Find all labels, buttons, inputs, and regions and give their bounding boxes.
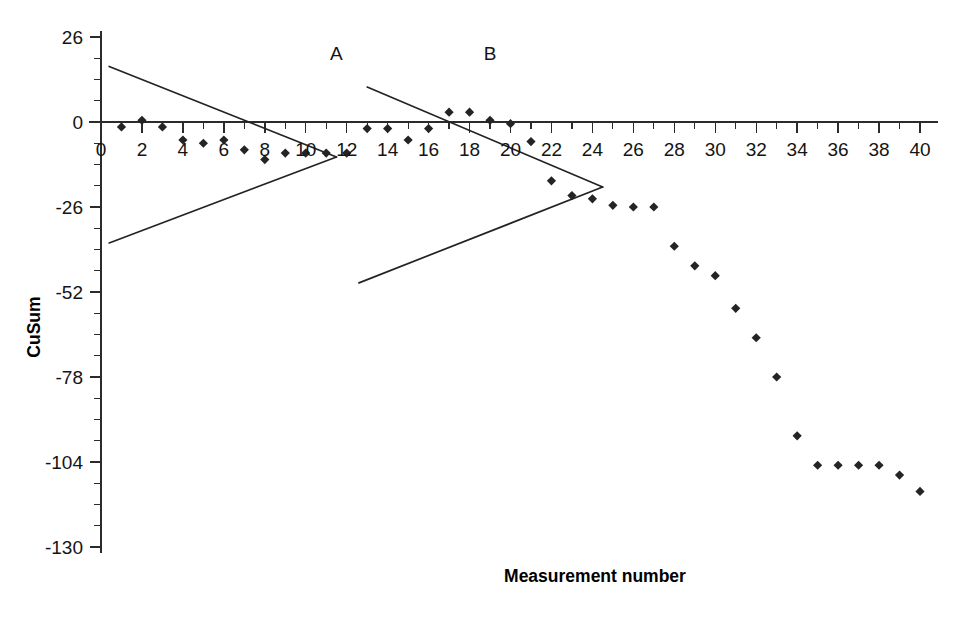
data-point <box>690 261 699 270</box>
y-tick-label: -52 <box>56 282 83 303</box>
x-tick-label: 14 <box>377 139 399 160</box>
x-tick-label: 36 <box>828 139 849 160</box>
data-point <box>281 148 290 157</box>
data-point <box>752 333 761 342</box>
data-point <box>588 194 597 203</box>
x-axis-title: Measurement number <box>504 566 686 586</box>
data-point <box>199 139 208 148</box>
x-tick-label: 22 <box>541 139 562 160</box>
x-tick-label: 6 <box>219 139 230 160</box>
x-tick-label: 20 <box>500 139 521 160</box>
x-tick-label: 12 <box>336 139 357 160</box>
data-point <box>465 108 474 117</box>
x-tick-label: 24 <box>582 139 604 160</box>
data-point <box>424 124 433 133</box>
data-point <box>834 461 843 470</box>
data-point <box>506 119 515 128</box>
x-tick-label: 2 <box>137 139 148 160</box>
data-point <box>670 242 679 251</box>
v-mask-upper-arm-b <box>367 87 602 187</box>
x-tick-label: 4 <box>178 139 189 160</box>
y-tick-label: -78 <box>56 367 83 388</box>
data-point <box>895 470 904 479</box>
data-point <box>383 124 392 133</box>
data-point <box>363 124 372 133</box>
v-mask-lower-arm-a <box>109 157 336 243</box>
x-tick-label: 18 <box>459 139 480 160</box>
x-tick-label: 8 <box>260 139 271 160</box>
data-point <box>322 148 331 157</box>
y-axis-ticks <box>90 37 101 547</box>
data-point-group <box>117 108 925 496</box>
mask-label-b: B <box>484 43 497 64</box>
data-point <box>772 372 781 381</box>
x-tick-label: 0 <box>96 139 107 160</box>
y-tick-label: -130 <box>45 537 83 558</box>
x-tick-label: 34 <box>787 139 809 160</box>
data-point <box>526 137 535 146</box>
y-tick-label: 26 <box>62 27 83 48</box>
x-tick-label: 16 <box>418 139 439 160</box>
y-tick-label: 0 <box>72 112 83 133</box>
data-point <box>137 116 146 125</box>
x-tick-label: 10 <box>295 139 316 160</box>
v-mask-group <box>109 66 602 282</box>
x-tick-label: 40 <box>909 139 930 160</box>
data-point <box>547 176 556 185</box>
data-point <box>117 122 126 131</box>
data-point <box>854 461 863 470</box>
data-point <box>404 135 413 144</box>
x-tick-label: 30 <box>705 139 726 160</box>
data-point <box>731 304 740 313</box>
data-point <box>915 487 924 496</box>
data-point <box>649 202 658 211</box>
x-tick-label-group: 0246810121416182022242628303234363840 <box>96 139 931 160</box>
y-tick-label: -104 <box>45 452 83 473</box>
mask-label-group: AB <box>330 43 496 64</box>
data-point <box>813 461 822 470</box>
y-axis-title: CuSum <box>24 296 44 357</box>
data-point <box>711 271 720 280</box>
data-point <box>793 431 802 440</box>
plot-area: 0246810121416182022242628303234363840 26… <box>0 0 965 618</box>
data-point <box>240 145 249 154</box>
x-tick-label: 28 <box>664 139 685 160</box>
x-tick-label: 38 <box>868 139 889 160</box>
v-mask-lower-arm-b <box>359 187 603 283</box>
data-point <box>629 202 638 211</box>
data-point <box>158 122 167 131</box>
mask-label-a: A <box>330 43 343 64</box>
data-point <box>874 461 883 470</box>
data-point <box>485 116 494 125</box>
data-point <box>444 108 453 117</box>
x-tick-label: 26 <box>623 139 644 160</box>
y-tick-label-group: 260-26-52-78-104-130 <box>45 27 83 558</box>
x-tick-label: 32 <box>746 139 767 160</box>
y-tick-label: -26 <box>56 197 83 218</box>
cusum-chart: 0246810121416182022242628303234363840 26… <box>0 0 965 618</box>
data-point <box>608 201 617 210</box>
